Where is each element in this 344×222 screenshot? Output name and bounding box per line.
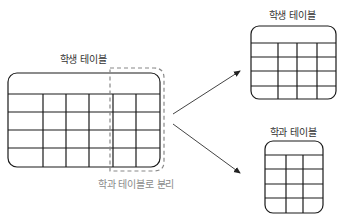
arrow-to-student-table (173, 71, 240, 114)
split-caption: 학과 테이블로 분리 (98, 176, 174, 191)
source-student-table (8, 73, 160, 167)
arrow-to-department-table (173, 124, 240, 173)
split-region-dashed (110, 68, 164, 171)
source-table-label: 학생 테이블 (60, 51, 107, 66)
result-department-table (265, 141, 323, 213)
result-student-table-label: 학생 테이블 (269, 7, 316, 22)
result-student-table (251, 26, 336, 99)
result-department-table-label: 학과 테이블 (270, 124, 317, 139)
